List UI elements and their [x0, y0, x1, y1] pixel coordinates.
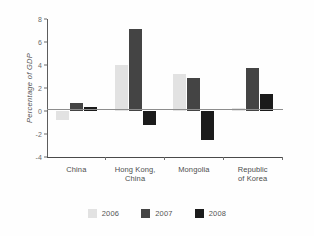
x-axis-tick-mark — [223, 157, 224, 160]
x-axis-tick-mark — [164, 157, 165, 160]
x-axis-category-label: Republic of Korea — [223, 165, 282, 183]
chart-legend: 200620072008 — [0, 209, 314, 218]
legend-label: 2006 — [102, 209, 120, 218]
bar — [246, 68, 259, 111]
bar — [129, 29, 142, 111]
legend-swatch-2007 — [141, 209, 150, 218]
x-axis-tick-mark — [282, 157, 283, 160]
y-axis-title: Percentage of GDP — [25, 53, 34, 123]
bar-group: Mongolia — [165, 19, 224, 157]
legend-label: 2008 — [209, 209, 227, 218]
bar-group: Republic of Korea — [223, 19, 282, 157]
x-axis-line — [47, 157, 283, 158]
bar — [56, 111, 69, 120]
bar-chart: Percentage of GDP 86420-2-4ChinaHong Kon… — [0, 0, 314, 236]
bar — [173, 74, 186, 111]
legend-label: 2007 — [155, 209, 173, 218]
legend-swatch-2006 — [88, 209, 97, 218]
bar — [143, 111, 156, 125]
legend-swatch-2008 — [195, 209, 204, 218]
legend-item[interactable]: 2007 — [141, 209, 173, 218]
plot-area: 86420-2-4ChinaHong Kong, ChinaMongoliaRe… — [47, 19, 282, 157]
legend-item[interactable]: 2006 — [88, 209, 120, 218]
bar — [187, 78, 200, 111]
bar — [115, 65, 128, 111]
zero-baseline — [47, 109, 283, 110]
x-axis-category-label: Hong Kong, China — [106, 165, 165, 183]
legend-item[interactable]: 2008 — [195, 209, 227, 218]
x-axis-tick-mark — [105, 157, 106, 160]
bar-group: China — [47, 19, 106, 157]
bar-group: Hong Kong, China — [106, 19, 165, 157]
bar — [201, 111, 214, 140]
x-axis-category-label: Mongolia — [165, 165, 224, 174]
x-axis-category-label: China — [47, 165, 106, 174]
y-axis-title-container: Percentage of GDP — [0, 19, 22, 157]
